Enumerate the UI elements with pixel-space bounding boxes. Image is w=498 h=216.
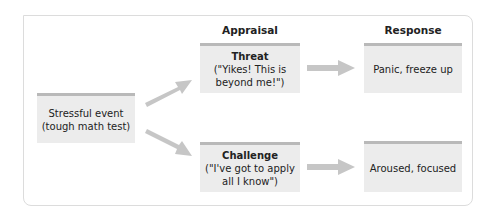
arrow-to-threat-icon: [145, 80, 192, 107]
arrow-to-panic-icon: [307, 60, 355, 76]
arrows-layer: [0, 0, 498, 216]
arrow-to-challenge-icon: [145, 129, 192, 156]
arrow-to-aroused-icon: [307, 159, 355, 175]
